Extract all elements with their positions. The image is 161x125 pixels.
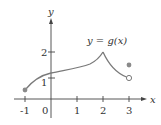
x-tick-label: 0 bbox=[42, 105, 48, 116]
y-tick-label: 1 bbox=[41, 77, 47, 88]
y-axis-arrow-icon bbox=[49, 18, 53, 24]
curve-right-branch bbox=[103, 52, 127, 77]
function-graph: y x -1 0 1 2 3 1 2 y = g(x) bbox=[0, 0, 161, 125]
x-axis-label: x bbox=[150, 94, 156, 105]
x-axis-arrow-icon bbox=[141, 97, 147, 101]
filled-point bbox=[23, 88, 28, 93]
curve-label: y = g(x) bbox=[86, 35, 127, 46]
x-tick-label: -1 bbox=[20, 105, 30, 116]
x-tick-label: 1 bbox=[74, 105, 80, 116]
open-point bbox=[126, 75, 131, 80]
y-tick-label: 2 bbox=[41, 47, 47, 58]
y-axis-label: y bbox=[47, 6, 54, 17]
x-tick-label: 2 bbox=[100, 105, 106, 116]
filled-point bbox=[127, 63, 132, 68]
x-tick-label: 3 bbox=[126, 105, 132, 116]
curve-left-branch bbox=[25, 52, 103, 90]
